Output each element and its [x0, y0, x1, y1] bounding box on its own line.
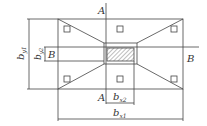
label-by2: by2	[33, 47, 45, 60]
section-label-b-right: B	[186, 53, 194, 64]
section-label-a-top: A	[97, 5, 105, 16]
column-section	[107, 48, 134, 61]
section-label-b-left: B	[47, 49, 55, 60]
section-label-a-bottom: A	[97, 92, 105, 103]
foundation-plan-diagram: A A B B by1 by2 bx2 bx1	[0, 0, 207, 126]
label-bx1: bx1	[113, 107, 127, 119]
svg-text:by1: by1	[15, 46, 28, 60]
label-bx2: bx2	[113, 91, 127, 103]
label-by1: by1	[15, 46, 28, 60]
svg-text:by2: by2	[33, 47, 45, 60]
